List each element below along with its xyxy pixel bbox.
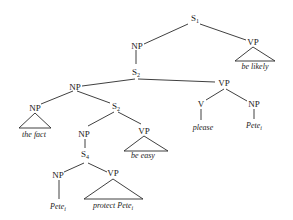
edge-s2-npinner: [88, 112, 114, 126]
node-np-fact: NP: [29, 103, 41, 113]
edge-s1-vp: [200, 24, 246, 40]
edge-s4-vp: [88, 163, 107, 172]
node-np-mid: NP: [69, 82, 81, 92]
node-vp-top: VP: [247, 37, 259, 47]
edge-vp-v: [206, 89, 224, 100]
node-s2-inner: S2: [112, 101, 120, 112]
triangle-the-fact: [19, 113, 51, 128]
leaf-the-fact: the fact: [22, 130, 47, 139]
node-np-inner: NP: [78, 129, 90, 139]
leaf-pete-obj: Petei: [245, 121, 262, 131]
node-v: V: [198, 99, 205, 109]
node-np-pete: NP: [52, 170, 64, 180]
node-vp-easy: VP: [138, 126, 150, 136]
node-vp-mid: VP: [218, 78, 230, 88]
edge-vp-np: [226, 89, 247, 101]
node-np-top: NP: [131, 41, 143, 51]
edge-np-npfact: [41, 91, 73, 104]
edge-s2-np: [82, 79, 135, 86]
leaf-be-likely: be likely: [242, 62, 269, 71]
leaf-protect-pete: protect Petei: [92, 201, 134, 211]
leaf-pete-subj: Petei: [49, 202, 66, 212]
triangle-be-likely: [235, 47, 275, 61]
triangle-protect-pete: [84, 179, 143, 199]
syntax-tree: S1 NP VP be likely S2 NP VP V please NP …: [0, 0, 293, 220]
triangle-be-easy: [124, 136, 168, 151]
edge-s1-np: [144, 24, 188, 44]
node-s2-top: S2: [132, 67, 140, 78]
leaf-be-easy: be easy: [131, 151, 155, 160]
node-s1: S1: [191, 13, 199, 24]
edge-s2-vpeasy: [118, 112, 141, 124]
node-np-obj: NP: [248, 99, 260, 109]
edge-np-s2inner: [77, 91, 110, 103]
edge-s4-np: [64, 163, 84, 172]
node-s4: S4: [81, 149, 89, 160]
leaf-please: please: [192, 123, 214, 132]
edge-s2-vp: [138, 79, 215, 82]
node-vp-protect: VP: [107, 168, 119, 178]
